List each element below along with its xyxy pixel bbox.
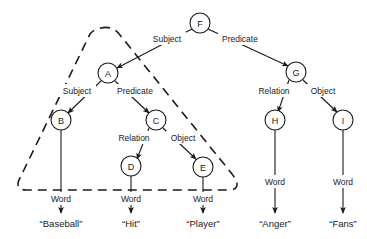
- node-B[interactable]: B: [51, 110, 71, 130]
- edge-label-A-B: Subject: [63, 86, 92, 96]
- edge-label-D-word: Word: [121, 194, 141, 204]
- diagram-canvas: Subject Predicate Subject Predicate Rela…: [0, 0, 367, 239]
- edge-label-B-word: Word: [51, 194, 71, 204]
- edge-label-C-E: Object: [171, 133, 196, 143]
- edge-label-F-G: Predicate: [222, 34, 258, 44]
- edge-label-A-C: Predicate: [117, 86, 153, 96]
- node-I[interactable]: I: [333, 110, 353, 130]
- node-text-B: B: [58, 116, 64, 126]
- terminal-anger: “Anger”: [259, 218, 291, 229]
- node-text-F: F: [197, 19, 203, 29]
- node-text-E: E: [200, 163, 206, 173]
- edge-label-I-word: Word: [333, 177, 353, 187]
- node-text-C: C: [153, 116, 160, 126]
- edge-label-F-A: Subject: [153, 34, 182, 44]
- node-F[interactable]: F: [190, 13, 210, 33]
- edge-label-G-I: Object: [311, 86, 336, 96]
- edge-label-E-word: Word: [193, 194, 213, 204]
- node-E[interactable]: E: [193, 157, 213, 177]
- terminal-fans: “Fans”: [329, 218, 356, 229]
- terminal-baseball: “Baseball”: [40, 218, 83, 229]
- edge-label-C-D: Relation: [118, 133, 149, 143]
- edge-label-H-word: Word: [265, 177, 285, 187]
- edge-label-G-H: Relation: [258, 86, 289, 96]
- node-G[interactable]: G: [286, 62, 306, 82]
- terminal-group: “Baseball” “Hit” “Player” “Anger” “Fans”: [40, 218, 357, 229]
- node-text-A: A: [105, 69, 111, 79]
- node-text-G: G: [292, 68, 299, 78]
- node-A[interactable]: A: [98, 63, 118, 83]
- node-text-I: I: [342, 116, 345, 126]
- edge-group: [61, 29, 343, 213]
- node-text-D: D: [128, 162, 135, 172]
- semantic-network-graph: Subject Predicate Subject Predicate Rela…: [0, 0, 367, 239]
- node-D[interactable]: D: [121, 156, 141, 176]
- node-C[interactable]: C: [146, 110, 166, 130]
- terminal-hit: “Hit”: [122, 218, 140, 229]
- node-H[interactable]: H: [265, 110, 285, 130]
- terminal-player: “Player”: [186, 218, 219, 229]
- node-text-H: H: [272, 116, 279, 126]
